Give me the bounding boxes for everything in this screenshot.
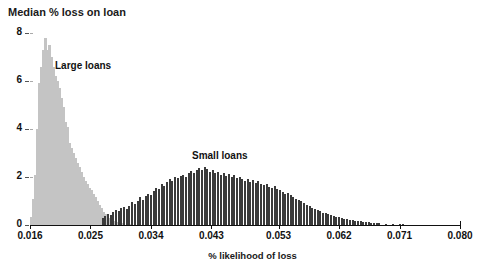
histogram-bar — [311, 208, 313, 225]
histogram-bar — [169, 179, 171, 225]
x-tick-label: 0.080 — [430, 230, 479, 241]
histogram-bar — [303, 203, 305, 225]
chart-container: Median % loss on loan 02468 0.0160.0250.… — [0, 0, 479, 274]
histogram-bar — [214, 173, 216, 225]
histogram-bar — [292, 197, 294, 225]
histogram-bar — [287, 193, 289, 225]
histogram-bar — [223, 173, 225, 225]
histogram-bar — [128, 206, 130, 225]
histogram-bar — [314, 209, 316, 225]
histogram-bar — [182, 175, 184, 225]
histogram-bar — [333, 216, 335, 225]
histogram-bar — [139, 197, 141, 225]
x-tick-mark — [339, 225, 340, 229]
x-tick-label: 0.025 — [60, 230, 120, 241]
histogram-bar — [180, 176, 182, 225]
histogram-bar — [204, 167, 206, 225]
histogram-bar — [338, 217, 340, 225]
histogram-bar — [196, 170, 198, 225]
histogram-bar — [193, 173, 195, 225]
x-tick-label: 0.071 — [370, 230, 430, 241]
histogram-bar — [185, 177, 187, 225]
y-tick-mark — [25, 177, 29, 178]
series-label-small-loans: Small loans — [192, 150, 248, 161]
y-grid-stub — [30, 177, 33, 178]
histogram-bar — [257, 181, 259, 225]
x-tick-mark — [30, 225, 31, 229]
histogram-bar — [131, 202, 133, 225]
histogram-bar — [228, 174, 230, 225]
y-axis-title: Median % loss on loan — [8, 6, 126, 18]
histogram-bar — [126, 209, 128, 225]
x-tick-label: 0.043 — [181, 230, 241, 241]
histogram-bar — [290, 195, 292, 225]
histogram-bar — [155, 188, 157, 225]
y-tick-mark — [25, 225, 29, 226]
histogram-bar — [104, 216, 106, 225]
histogram-bar — [102, 218, 104, 225]
histogram-bar — [150, 195, 152, 225]
histogram-bar — [209, 172, 211, 225]
histogram-bar — [255, 183, 257, 225]
histogram-bar — [142, 200, 144, 225]
y-tick-label: 0 — [2, 218, 22, 229]
histogram-bar — [330, 215, 332, 225]
histogram-bar — [252, 180, 254, 225]
histogram-bar — [198, 168, 200, 225]
histogram-bar — [271, 188, 273, 225]
histogram-bar — [282, 192, 284, 225]
histogram-bar — [274, 186, 276, 225]
histogram-bar — [118, 211, 120, 225]
histogram-bar — [306, 205, 308, 225]
y-tick-label: 4 — [2, 122, 22, 133]
histogram-bar — [236, 178, 238, 225]
histogram-bar — [231, 177, 233, 225]
histogram-bar — [174, 177, 176, 225]
histogram-bar — [225, 176, 227, 225]
histogram-bar — [284, 194, 286, 225]
y-grid-stub — [30, 81, 33, 82]
histogram-bar — [300, 201, 302, 225]
x-axis-line — [30, 225, 461, 226]
histogram-bar — [120, 208, 122, 225]
histogram-bar — [112, 212, 114, 225]
y-tick-label: 2 — [2, 170, 22, 181]
histogram-bar — [266, 184, 268, 225]
histogram-bar — [158, 189, 160, 225]
y-grid-stub — [30, 129, 33, 130]
x-tick-mark — [400, 225, 401, 229]
histogram-bar — [163, 186, 165, 225]
histogram-bar — [317, 210, 319, 225]
series-label-large-loans: Large loans — [55, 60, 111, 71]
y-tick-mark — [25, 81, 29, 82]
histogram-bar — [247, 179, 249, 225]
histogram-bar — [161, 184, 163, 225]
histogram-bar — [166, 182, 168, 225]
histogram-bar — [239, 177, 241, 225]
histogram-bar — [268, 187, 270, 225]
histogram-bar — [107, 214, 109, 225]
histogram-bar — [244, 181, 246, 225]
histogram-bar — [233, 175, 235, 225]
histogram-bar — [319, 211, 321, 225]
histogram-bar — [147, 194, 149, 225]
x-tick-label: 0.053 — [249, 230, 309, 241]
histogram-bar — [279, 190, 281, 225]
x-tick-mark — [211, 225, 212, 229]
histogram-bar — [206, 169, 208, 225]
x-tick-mark — [151, 225, 152, 229]
y-tick-mark — [25, 33, 29, 34]
histogram-bar — [335, 217, 337, 225]
histogram-bar — [115, 210, 117, 225]
histogram-bar — [201, 170, 203, 225]
histogram-bar — [110, 215, 112, 225]
x-tick-label: 0.034 — [121, 230, 181, 241]
x-tick-mark — [460, 225, 461, 229]
histogram-bar — [134, 204, 136, 225]
histogram-bar — [263, 185, 265, 225]
x-tick-label: 0.016 — [0, 230, 60, 241]
histogram-bar — [190, 171, 192, 225]
histogram-bar — [341, 218, 343, 225]
histogram-bar — [298, 200, 300, 225]
histogram-bar — [309, 206, 311, 225]
